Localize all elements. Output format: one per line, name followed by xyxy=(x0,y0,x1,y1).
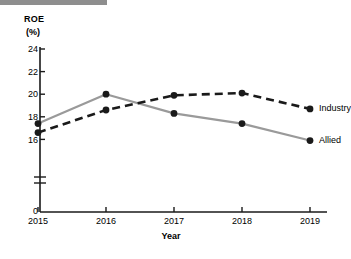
data-point xyxy=(103,107,110,114)
line-series-allied xyxy=(38,94,310,140)
data-point xyxy=(239,120,246,127)
data-point xyxy=(307,105,314,112)
data-point xyxy=(103,91,110,98)
data-point xyxy=(171,92,178,99)
data-point xyxy=(239,90,246,97)
data-point xyxy=(307,137,314,144)
data-point xyxy=(171,110,178,117)
data-point xyxy=(35,129,42,136)
data-point xyxy=(35,120,42,127)
